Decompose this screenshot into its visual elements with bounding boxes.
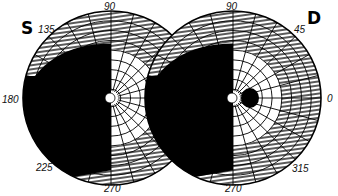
right-eye-label: D (307, 10, 321, 27)
right-label-90: 90 (226, 2, 237, 12)
left-label-180: 180 (2, 95, 19, 105)
right-label-315: 315 (292, 164, 309, 174)
left-label-270: 270 (104, 184, 121, 194)
right-label-45: 45 (294, 25, 305, 35)
right-label-270: 270 (225, 184, 242, 194)
left-label-225: 225 (36, 163, 53, 173)
left-label-135: 135 (38, 25, 55, 35)
left-eye-chart-fixation (105, 93, 115, 103)
right-eye-chart-blind-spot (241, 88, 259, 108)
left-eye-label: S (21, 20, 33, 37)
left-label-90: 90 (104, 2, 115, 12)
right-eye-chart (145, 11, 321, 186)
right-label-0: 0 (327, 94, 333, 104)
right-eye-chart-fixation (227, 93, 237, 103)
visual-field-diagram: S 90 135 180 225 270 D 90 45 0 315 270 (0, 0, 338, 196)
